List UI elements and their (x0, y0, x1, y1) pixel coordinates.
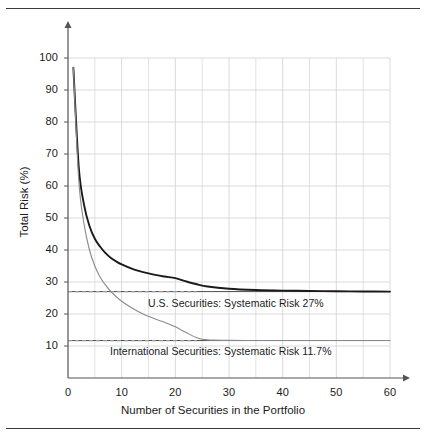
y-tick-label: 90 (32, 83, 58, 95)
y-tick-label: 40 (32, 243, 58, 255)
y-tick-label: 70 (32, 147, 58, 159)
y-tick-label: 80 (32, 115, 58, 127)
international-securities-annotation: International Securities: Systematic Ris… (110, 345, 332, 357)
x-tick-label: 60 (375, 386, 405, 398)
x-tick-label: 10 (107, 386, 137, 398)
y-tick-label: 10 (32, 339, 58, 351)
axis-lines (68, 27, 404, 378)
x-tick-label: 40 (268, 386, 298, 398)
x-tick-label: 50 (321, 386, 351, 398)
x-tick-label: 30 (214, 386, 244, 398)
us-securities-annotation: U.S. Securities: Systematic Risk 27% (148, 297, 324, 309)
chart-plot-area (0, 0, 426, 439)
y-axis-title: Total Risk (%) (18, 147, 30, 257)
x-tick-label: 0 (53, 386, 83, 398)
y-tick-label: 50 (32, 211, 58, 223)
y-tick-label: 100 (32, 51, 58, 63)
x-tick-label: 20 (160, 386, 190, 398)
y-tick-label: 20 (32, 307, 58, 319)
figure-container: 102030405060708090100 0102030405060 Tota… (0, 0, 426, 439)
y-tick-label: 30 (32, 275, 58, 287)
y-tick-label: 60 (32, 179, 58, 191)
x-axis-title: Number of Securities in the Portfolio (0, 404, 426, 416)
